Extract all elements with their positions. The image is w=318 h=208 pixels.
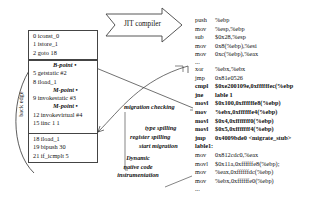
b-point-label: B-point bbox=[53, 61, 73, 68]
asm-line: movl$0x100,0xffffffe8(%ebp) bbox=[195, 99, 293, 108]
bytecode-block-loop-condition: 18 iload_1 19 bipush 30 21 if_icmplt 5 bbox=[28, 133, 98, 163]
m-point-dot: • bbox=[76, 86, 78, 93]
asm-line: cmpl$0xe200109e,0xffffffec(%ebp bbox=[195, 82, 293, 91]
asm-line: mov0x812cdc0,%eax bbox=[195, 151, 293, 160]
dynamic-instrumentation-label: Dynamic native code instrumentation bbox=[103, 154, 173, 180]
bytecode-block-entry: 0 iconst_0 1 istore_1 2 goto 18 bbox=[28, 30, 98, 60]
bytecode-line: 1 istore_1 bbox=[33, 40, 97, 48]
jit-compiler-label: JIT compiler bbox=[124, 20, 161, 28]
asm-line: movl$0x11a,0xffffffe8(%ebp); bbox=[195, 160, 293, 169]
bytecode-line: 2 goto 18 bbox=[33, 49, 97, 57]
asm-line: mov%ebx,0xffffffe0(%ebp) bbox=[195, 177, 293, 186]
bytecode-line: 8 iload_1 bbox=[33, 78, 97, 86]
register-spilling-label: register spilling bbox=[130, 133, 170, 140]
asm-line: movl$0x5,0xfffffff4(%ebp) bbox=[195, 125, 293, 134]
bytecode-line: 19 bipush 30 bbox=[33, 143, 97, 151]
asm-line: jnelable 1 bbox=[195, 91, 293, 100]
asm-line: mov0xc(%ebp),%eax bbox=[195, 50, 293, 59]
asm-line: mov%ebx,0xffffffe4(%ebp) bbox=[195, 108, 293, 117]
bytecode-line: 12 invokevirtual #4 bbox=[33, 111, 97, 119]
asm-line: ... bbox=[195, 185, 293, 194]
type-spilling-label: type spilling bbox=[145, 124, 176, 131]
assembly-listing: push%ebp mov%esp,%ebp sub$0x28,%esp mov0… bbox=[195, 16, 293, 194]
asm-line: jmp0x4009bde0 <migrate_stub> bbox=[195, 134, 293, 143]
m-point-label: M-point bbox=[53, 86, 74, 93]
migration-checking-label: migration checking bbox=[124, 103, 175, 110]
m-point-dot: • bbox=[76, 102, 78, 109]
asm-line: xor%ebx,%ebx bbox=[195, 65, 293, 74]
asm-line: lable1: bbox=[195, 142, 293, 151]
bytecode-line: 18 iload_1 bbox=[33, 135, 97, 143]
bytecode-line: 9 invokestatic #3 bbox=[33, 94, 97, 102]
asm-line: mov%esp,%ebp bbox=[195, 25, 293, 34]
b-point-dot: • bbox=[74, 61, 76, 68]
bytecode-line: 5 getstatic #2 bbox=[33, 69, 97, 77]
asm-line: jmp0x81e0526 bbox=[195, 74, 293, 83]
asm-line: movl$0x4,0xfffffff0(%ebp) bbox=[195, 117, 293, 126]
asm-line: sub$0x28,%esp bbox=[195, 33, 293, 42]
back-edge-label: back edge bbox=[17, 91, 25, 116]
start-migration-label: start migration bbox=[139, 142, 178, 149]
asm-line: mov0x8(%ebp),%esi bbox=[195, 42, 293, 51]
bytecode-line: 15 iinc 1 1 bbox=[33, 119, 97, 127]
asm-line: mov%eax,0xffffffdc(%ebp) bbox=[195, 168, 293, 177]
bytecode-block-loop-body: B-point • 5 getstatic #2 8 iload_1 M-poi… bbox=[28, 60, 98, 134]
bytecode-line: 0 iconst_0 bbox=[33, 32, 97, 40]
m-point-label: M-point bbox=[53, 102, 74, 109]
bytecode-line: 21 if_icmplt 5 bbox=[33, 152, 97, 160]
asm-line: push%ebp bbox=[195, 16, 293, 25]
